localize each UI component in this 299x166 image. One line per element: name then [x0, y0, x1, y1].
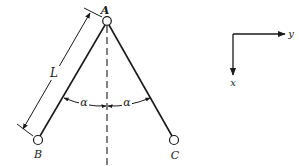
bob-b [34, 136, 43, 145]
pendulum-diagram: L α α A B C y x [0, 0, 299, 166]
axis-y-label: y [287, 28, 294, 39]
coordinate-axes: y x [230, 28, 294, 88]
dimension-extension-top [84, 8, 102, 17]
point-label-b: B [33, 148, 42, 161]
bob-c [170, 136, 179, 145]
point-label-a: A [100, 4, 110, 17]
rod-ab [40, 25, 105, 136]
axis-x-label: x [230, 77, 236, 88]
rod-ac [109, 25, 172, 136]
angle-label-left: α [80, 96, 88, 109]
length-label: L [49, 66, 58, 80]
joint-a [103, 17, 112, 26]
point-label-c: C [171, 149, 180, 162]
angle-label-right: α [123, 96, 131, 109]
